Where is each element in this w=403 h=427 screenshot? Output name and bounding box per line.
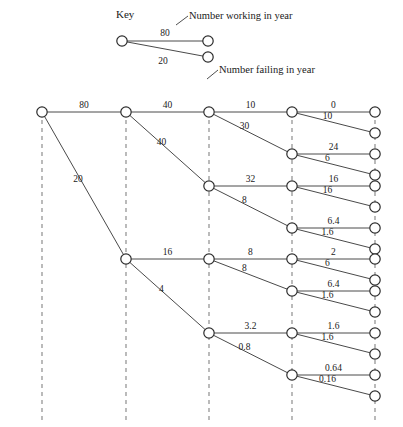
tree-node-n4o <box>370 370 380 380</box>
tree-node-n4i <box>370 254 380 264</box>
tree-node-n4d <box>370 170 380 180</box>
key-failing-edge <box>122 41 208 57</box>
edge-label-n3f-n4k: 6.4 <box>327 280 339 290</box>
edge-failing-n2d-n3h <box>214 335 288 372</box>
tree-node-n4n <box>370 349 380 359</box>
edge-failing-n1a-n2b <box>130 115 205 182</box>
key-title: Key <box>116 8 134 20</box>
key-working-caption: Number working in year <box>189 10 293 21</box>
edge-label-n0-n1b: 20 <box>73 174 83 184</box>
edge-label-n3b-n4c: 24 <box>329 143 339 153</box>
tree-node-n3h <box>287 370 297 380</box>
edge-failing-n3c-n4f <box>297 187 370 205</box>
tree-node-n2a <box>204 107 214 117</box>
tree-node-n3f <box>287 286 297 296</box>
tree-node-n4j <box>370 275 380 285</box>
key-failing-caption: Number failing in year <box>219 64 315 75</box>
tree-node-n4b <box>370 128 380 138</box>
tree-node-n4m <box>370 328 380 338</box>
edge-label-n3h-n4o: 0.64 <box>325 364 342 374</box>
tree-node-n2b <box>204 181 214 191</box>
edge-label-n3a-n4b: 10 <box>323 111 333 121</box>
tree-node-n2d <box>204 328 214 338</box>
edge-label-n1b-n2d: 4 <box>159 285 164 295</box>
edge-label-n1a-n2a: 40 <box>163 101 173 111</box>
tree-node-n3e <box>287 254 297 264</box>
key-working-value: 80 <box>160 28 170 38</box>
edge-label-n1a-n2b: 40 <box>157 138 167 148</box>
edge-failing-n2c-n3f <box>214 261 287 289</box>
edge-label-n3d-n4h: 1.6 <box>321 227 333 237</box>
tree-node-n4f <box>370 202 380 212</box>
edge-label-n3d-n4g: 6.4 <box>327 217 339 227</box>
tree-node-n4c <box>370 149 380 159</box>
edge-label-n2d-n3g: 3.2 <box>244 322 256 332</box>
edge-label-n3c-n4e: 16 <box>329 175 339 185</box>
edge-failing-n1b-n2d <box>130 262 205 329</box>
tree-node-n3c <box>287 181 297 191</box>
edge-label-n2c-n3f: 8 <box>242 264 247 274</box>
tree-node-n3d <box>287 223 297 233</box>
edge-label-n2b-n3d: 8 <box>242 196 247 206</box>
tree-node-n3a <box>287 107 297 117</box>
tree-node-n3b <box>287 149 297 159</box>
key-working-node <box>203 36 213 46</box>
edges-group <box>45 112 370 395</box>
edge-label-n2a-n3b: 30 <box>240 122 250 132</box>
edge-label-n0-n1a: 80 <box>79 101 89 111</box>
diagram-canvas <box>0 0 403 427</box>
edge-failing-n2b-n3d <box>214 188 288 225</box>
edge-label-n3a-n4a: 0 <box>331 101 336 111</box>
tree-node-n4l <box>370 307 380 317</box>
key-failing-leader <box>207 70 218 79</box>
edge-label-n3g-n4m: 1.6 <box>327 322 339 332</box>
key-failing-node <box>203 52 213 62</box>
tree-node-n4k <box>370 286 380 296</box>
edge-label-n2a-n3a: 10 <box>246 101 256 111</box>
edge-failing-n3a-n4b <box>297 113 370 131</box>
tree-node-n1b <box>121 254 131 264</box>
edge-label-n3g-n4n: 1.6 <box>321 332 333 342</box>
edge-failing-n0-n1b <box>45 117 124 255</box>
tree-node-n4g <box>370 223 380 233</box>
edge-label-n3h-n4p: 0.16 <box>319 374 336 384</box>
tree-node-n1a <box>121 107 131 117</box>
edge-label-n3e-n4i: 2 <box>331 248 336 258</box>
tree-node-n2c <box>204 254 214 264</box>
edge-failing-n3b-n4d <box>297 155 370 173</box>
tree-node-n0 <box>37 107 47 117</box>
tree-node-n4p <box>370 391 380 401</box>
key-working-leader <box>176 16 188 25</box>
key-graphic <box>117 16 218 79</box>
tree-node-n4e <box>370 181 380 191</box>
edge-label-n1b-n2c: 16 <box>163 248 173 258</box>
edge-label-n3c-n4f: 16 <box>323 185 333 195</box>
edge-label-n3e-n4j: 6 <box>325 258 330 268</box>
key-failing-value: 20 <box>158 56 168 66</box>
key-source-node <box>117 36 127 46</box>
edge-label-n2b-n3c: 32 <box>246 175 256 185</box>
edge-label-n2d-n3h: 0.8 <box>238 343 250 353</box>
edge-label-n2c-n3e: 8 <box>248 248 253 258</box>
edge-label-n3f-n4l: 1.6 <box>321 290 333 300</box>
tree-node-n4h <box>370 244 380 254</box>
survival-tree-diagram: Key Number working in year Number failin… <box>0 0 403 427</box>
tree-node-n3g <box>287 328 297 338</box>
tree-node-n4a <box>370 107 380 117</box>
edge-label-n3b-n4d: 6 <box>325 153 330 163</box>
edge-failing-n3e-n4j <box>297 260 370 278</box>
edge-failing-n2a-n3b <box>214 114 288 151</box>
